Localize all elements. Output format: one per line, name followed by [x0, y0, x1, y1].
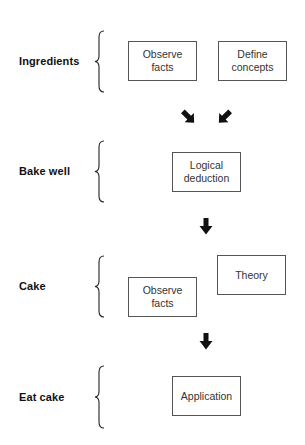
curly-brace-icon [94, 255, 106, 318]
box-text: Observe facts [143, 48, 183, 74]
curly-brace-icon [94, 140, 106, 203]
stage-label-eat-cake: Eat cake [19, 391, 64, 403]
box-application: Application [172, 376, 241, 416]
box-theory: Theory [217, 255, 286, 295]
arrow-down-icon [199, 333, 213, 350]
box-observe-facts-cake: Observe facts [128, 277, 197, 317]
box-logical-deduction: Logical deduction [172, 152, 241, 192]
box-text: Observe facts [143, 284, 183, 310]
arrow-down-left-icon [217, 109, 232, 125]
stage-label-ingredients: Ingredients [19, 55, 79, 67]
stage-label-cake: Cake [19, 280, 46, 292]
box-text: Logical deduction [184, 159, 230, 185]
arrow-down-right-icon [181, 109, 196, 125]
box-text: Theory [235, 269, 268, 282]
box-text: Application [181, 390, 232, 403]
curly-brace-icon [94, 30, 106, 93]
box-observe-facts: Observe facts [128, 41, 197, 81]
stage-label-bake-well: Bake well [19, 165, 70, 177]
box-define-concepts: Define concepts [218, 41, 287, 81]
box-text: Define concepts [231, 48, 273, 74]
curly-brace-icon [94, 365, 106, 429]
arrow-down-icon [199, 218, 213, 235]
